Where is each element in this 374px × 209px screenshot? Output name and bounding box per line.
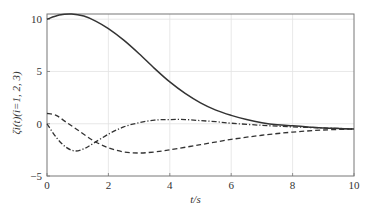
y-tick-label: 0 (37, 118, 43, 130)
x-axis-label: t/s (190, 193, 200, 205)
y-tick-label: 10 (31, 13, 43, 25)
x-tick-label: 0 (44, 179, 50, 191)
x-tick-label: 10 (349, 179, 361, 191)
y-tick-label: 5 (37, 65, 43, 77)
x-tick-label: 4 (167, 179, 173, 191)
chart: 0246810−50510 t/s ζi(t)(i=1, 2, 3) (0, 0, 374, 209)
y-tick-label: −5 (30, 170, 42, 182)
series-line-3 (47, 113, 354, 153)
x-tick-label: 8 (290, 179, 296, 191)
grid-layer (47, 14, 354, 176)
ticks-layer: 0246810−50510 (30, 13, 360, 191)
plot-frame (47, 14, 354, 176)
x-tick-label: 6 (228, 179, 234, 191)
series-layer (47, 14, 354, 153)
y-axis-label: ζi(t)(i=1, 2, 3) (10, 71, 23, 135)
series-line-2 (47, 119, 354, 151)
x-tick-label: 2 (106, 179, 112, 191)
